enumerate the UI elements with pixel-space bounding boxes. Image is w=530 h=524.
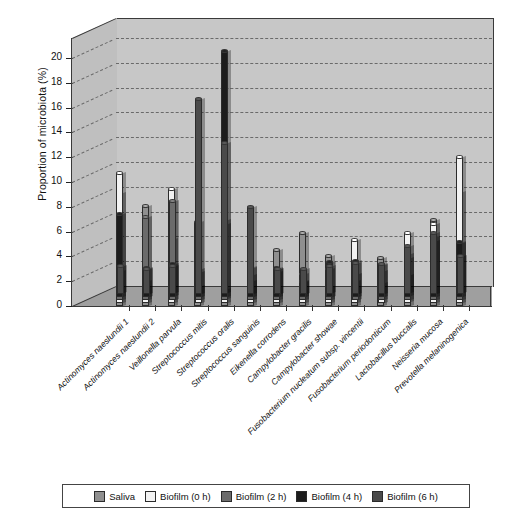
floor-front-edge bbox=[72, 306, 492, 307]
bar-cap bbox=[143, 267, 150, 271]
bar-body bbox=[274, 269, 281, 294]
bar bbox=[169, 266, 176, 293]
legend-item[interactable]: Biofilm (2 h) bbox=[221, 491, 287, 502]
y-axis-tick-label: 4 bbox=[36, 249, 62, 260]
bar-side bbox=[464, 255, 467, 293]
x-axis-label: Campylobacter gracilis bbox=[245, 316, 314, 385]
y-axis-tick-label: 10 bbox=[36, 175, 62, 186]
x-axis-label: Veillonella parvula bbox=[127, 316, 183, 372]
x-axis-label: Streptococcus oralis bbox=[174, 316, 236, 378]
gridline bbox=[116, 88, 492, 89]
chart-legend: SalivaBiofilm (0 h)Biofilm (2 h)Biofilm … bbox=[62, 484, 470, 508]
legend-item[interactable]: Saliva bbox=[94, 491, 135, 502]
x-axis-label: Lactobacillus buccalis bbox=[352, 316, 418, 382]
bar bbox=[326, 266, 333, 293]
x-axis-label: Actinomyces naeslundii 2 bbox=[81, 316, 157, 392]
legend-label: Saliva bbox=[109, 491, 135, 502]
legend-swatch bbox=[145, 491, 156, 502]
bar-cap bbox=[247, 205, 254, 209]
legend-label: Biofilm (4 h) bbox=[311, 491, 362, 502]
bar-cap bbox=[169, 199, 176, 203]
bar-body bbox=[300, 269, 307, 294]
y-axis-tick-label: 6 bbox=[36, 225, 62, 236]
floor-right-edge bbox=[490, 286, 491, 306]
bar bbox=[274, 269, 281, 294]
bar-body bbox=[221, 143, 228, 293]
bar-side bbox=[281, 268, 284, 294]
legend-swatch bbox=[372, 491, 383, 502]
x-axis-label: Streptococcus sanguinis bbox=[189, 316, 262, 389]
bar-cap bbox=[351, 238, 358, 242]
bar bbox=[221, 143, 228, 293]
x-axis-label: Eikenella corrodens bbox=[227, 316, 287, 376]
bar-body bbox=[117, 266, 124, 293]
y-axis-tick-label: 12 bbox=[36, 150, 62, 161]
bar-side bbox=[150, 268, 153, 294]
bar bbox=[430, 233, 437, 294]
bar bbox=[378, 264, 385, 294]
bar-side bbox=[411, 245, 414, 293]
gridline bbox=[116, 63, 492, 64]
gridline bbox=[116, 38, 492, 39]
x-axis-label: Fusobacterium periodonticum bbox=[305, 316, 392, 403]
bar-side bbox=[202, 98, 205, 294]
x-axis-label: Fusobacterium nucleatum subsp. vincentii bbox=[246, 316, 366, 436]
bar-body bbox=[404, 246, 411, 293]
x-axis-label: Prevotella melaninogenica bbox=[392, 316, 470, 394]
bar-body bbox=[378, 264, 385, 294]
bar-cap bbox=[299, 231, 306, 235]
bar-body bbox=[169, 266, 176, 293]
bar bbox=[117, 266, 124, 293]
gridline bbox=[116, 112, 492, 113]
legend-item[interactable]: Biofilm (6 h) bbox=[372, 491, 438, 502]
bar bbox=[457, 256, 464, 293]
x-axis-label: Neisseria mucosa bbox=[389, 316, 444, 371]
bar-cap bbox=[352, 261, 359, 265]
bar-body bbox=[430, 233, 437, 294]
bar-side bbox=[385, 263, 388, 294]
bar bbox=[195, 99, 202, 294]
y-axis-tick-label: 14 bbox=[36, 125, 62, 136]
bar-cap bbox=[142, 215, 149, 219]
bar-cap bbox=[116, 171, 123, 175]
bar-side bbox=[307, 268, 310, 294]
bar-cap bbox=[142, 204, 149, 208]
chart-figure: Proportion of microbiota (%) 02468101214… bbox=[0, 0, 530, 524]
bar-cap bbox=[195, 97, 202, 101]
bar bbox=[143, 269, 150, 294]
gridline bbox=[116, 137, 492, 138]
bar bbox=[352, 263, 359, 294]
bar-cap bbox=[274, 267, 281, 271]
y-axis-tick-label: 2 bbox=[36, 274, 62, 285]
bar-cap bbox=[377, 256, 384, 260]
y-axis-tick-label: 16 bbox=[36, 101, 62, 112]
bar-cap bbox=[456, 155, 463, 159]
gridline bbox=[116, 162, 492, 163]
x-axis-label: Campylobacter showae bbox=[269, 316, 340, 387]
bar bbox=[247, 207, 254, 294]
bar-body bbox=[247, 207, 254, 294]
bar-cap bbox=[116, 212, 123, 216]
bar-side bbox=[359, 262, 362, 294]
bar-side bbox=[176, 265, 179, 293]
y-axis-tick-label: 20 bbox=[36, 51, 62, 62]
bar-cap bbox=[430, 231, 437, 235]
bar-body bbox=[143, 269, 150, 294]
bar-side bbox=[437, 232, 440, 294]
x-axis-label: Actinomyces naeslundii 1 bbox=[55, 316, 131, 392]
bar-side bbox=[124, 265, 127, 293]
bar-cap bbox=[300, 267, 307, 271]
plot-area: 02468101214161820 bbox=[72, 18, 492, 306]
bar-side bbox=[254, 206, 257, 294]
legend-item[interactable]: Biofilm (0 h) bbox=[145, 491, 211, 502]
bar-cap bbox=[430, 222, 437, 226]
y-axis-tick-label: 18 bbox=[36, 76, 62, 87]
bar-side bbox=[228, 142, 231, 293]
bar-cap bbox=[378, 262, 385, 266]
y-axis-line bbox=[71, 38, 72, 306]
bar bbox=[300, 269, 307, 294]
y-axis-tick-label: 8 bbox=[36, 200, 62, 211]
bar-body bbox=[195, 99, 202, 294]
bar-body bbox=[457, 256, 464, 293]
legend-item[interactable]: Biofilm (4 h) bbox=[296, 491, 362, 502]
